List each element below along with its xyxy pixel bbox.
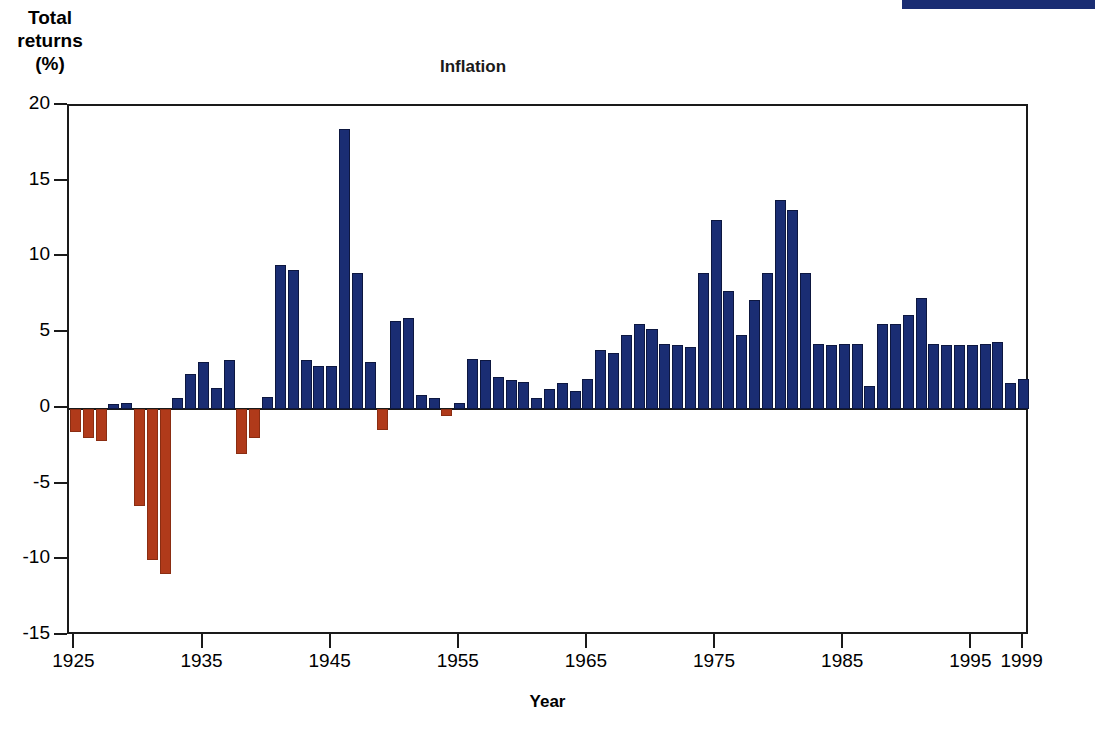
bar-1944: [313, 366, 324, 408]
bar-1973: [685, 347, 696, 409]
y-tick-label-10: 10: [2, 243, 50, 265]
bar-1994: [954, 345, 965, 409]
bar-1956: [467, 359, 478, 409]
bar-1997: [992, 342, 1003, 409]
bar-1980: [775, 200, 786, 409]
chart-title: Inflation: [440, 57, 506, 77]
bar-1962: [544, 389, 555, 409]
y-tick-0: [54, 406, 67, 408]
bar-1950: [390, 321, 401, 409]
bar-1965: [582, 379, 593, 409]
bar-1989: [890, 324, 901, 409]
bar-1943: [301, 360, 312, 408]
bar-1974: [698, 273, 709, 409]
x-tick-1995: [969, 634, 971, 648]
bar-1968: [621, 335, 632, 409]
chart-page: Total returns (%) Inflation 20151050-5-1…: [0, 0, 1095, 729]
bar-1927: [96, 409, 107, 441]
bar-1990: [903, 315, 914, 409]
bar-1993: [941, 345, 952, 409]
bar-1991: [916, 298, 927, 409]
bar-1999: [1018, 379, 1029, 409]
y-tick-label--10: -10: [2, 546, 50, 568]
bar-1972: [672, 345, 683, 409]
bar-1945: [326, 366, 337, 408]
x-tick-label-1985: 1985: [821, 650, 863, 672]
bar-1957: [480, 360, 491, 408]
bar-1958: [493, 377, 504, 409]
bar-1952: [416, 395, 427, 409]
header-accent-bar: [902, 0, 1095, 9]
x-tick-1965: [585, 634, 587, 648]
bar-1975: [711, 220, 722, 409]
y-tick-label--5: -5: [2, 471, 50, 493]
bar-1981: [787, 210, 798, 408]
y-tick-15: [54, 179, 67, 181]
bar-1985: [839, 344, 850, 409]
bar-1959: [506, 380, 517, 409]
bar-1932: [160, 409, 171, 574]
bar-1940: [262, 397, 273, 409]
bar-1987: [864, 386, 875, 409]
bar-1996: [980, 344, 991, 409]
y-tick-5: [54, 330, 67, 332]
x-tick-label-1975: 1975: [693, 650, 735, 672]
bar-1961: [531, 398, 542, 409]
x-axis-title: Year: [0, 692, 1095, 712]
bar-1963: [557, 383, 568, 409]
bar-1947: [352, 273, 363, 409]
bar-1942: [288, 270, 299, 409]
x-tick-label-1935: 1935: [180, 650, 222, 672]
bar-1988: [877, 324, 888, 409]
x-tick-label-1925: 1925: [52, 650, 94, 672]
bar-1998: [1005, 383, 1016, 409]
bar-1929: [121, 403, 132, 409]
bar-1938: [236, 409, 247, 454]
x-tick-1935: [201, 634, 203, 648]
bar-1970: [646, 329, 657, 409]
bar-1948: [365, 362, 376, 409]
y-tick-label-20: 20: [2, 92, 50, 114]
bar-1986: [852, 344, 863, 409]
bar-1934: [185, 374, 196, 409]
y-tick-label-15: 15: [2, 168, 50, 190]
x-tick-1985: [841, 634, 843, 648]
x-tick-label-1945: 1945: [309, 650, 351, 672]
bar-1928: [108, 404, 119, 409]
bar-1979: [762, 273, 773, 409]
bar-1954: [441, 409, 452, 417]
y-axis-caption-line1: Total: [6, 6, 94, 29]
bar-1937: [224, 360, 235, 408]
bar-1933: [172, 398, 183, 409]
bar-1966: [595, 350, 606, 409]
bar-1941: [275, 265, 286, 409]
bar-1976: [723, 291, 734, 409]
bar-1935: [198, 362, 209, 409]
bar-1971: [659, 344, 670, 409]
bar-1936: [211, 388, 222, 409]
bar-1995: [967, 345, 978, 409]
bar-1969: [634, 324, 645, 409]
y-tick--15: [54, 633, 67, 635]
x-tick-1975: [713, 634, 715, 648]
y-tick--5: [54, 482, 67, 484]
bar-1960: [518, 382, 529, 409]
bar-1977: [736, 335, 747, 409]
x-tick-1945: [329, 634, 331, 648]
y-axis-caption-line2: returns: [6, 29, 94, 52]
bar-1926: [83, 409, 94, 438]
bar-1982: [800, 273, 811, 409]
bar-1939: [249, 409, 260, 438]
bar-1978: [749, 300, 760, 409]
bar-1930: [134, 409, 145, 506]
x-tick-1955: [457, 634, 459, 648]
bar-1984: [826, 345, 837, 409]
y-tick-10: [54, 254, 67, 256]
bar-1951: [403, 318, 414, 409]
bar-1931: [147, 409, 158, 560]
y-tick-label-5: 5: [2, 319, 50, 341]
bar-1964: [570, 391, 581, 409]
y-tick-label--15: -15: [2, 622, 50, 644]
x-tick-1999: [1021, 634, 1023, 648]
bar-1949: [377, 409, 388, 430]
